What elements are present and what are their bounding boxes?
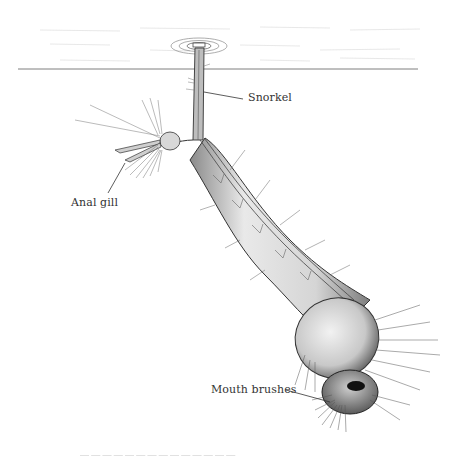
larva-head [322, 370, 378, 414]
anal-segment [160, 132, 180, 150]
anal-brush [75, 98, 162, 178]
label-mouth-brushes: Mouth brushes [211, 383, 297, 396]
mosquito-larva-diagram: Snorkel Anal gill Mouth brushes — — — — … [0, 0, 464, 460]
snorkel-siphon [193, 48, 204, 140]
label-snorkel: Snorkel [248, 91, 292, 104]
figure-caption: — — — — — — — — — — — — — — [80, 449, 400, 460]
label-anal-gill: Anal gill [71, 196, 118, 209]
water-surface [40, 27, 420, 61]
